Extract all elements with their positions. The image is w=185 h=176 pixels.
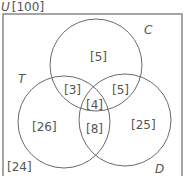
region-d-only: [25] bbox=[131, 118, 156, 132]
set-label-d: D bbox=[155, 162, 164, 176]
region-outside: [24] bbox=[7, 160, 32, 174]
set-label-c: C bbox=[144, 23, 153, 37]
universe-rectangle bbox=[3, 14, 182, 176]
region-all-three: [4] bbox=[86, 98, 103, 112]
region-c-and-d: [5] bbox=[112, 83, 129, 97]
universe-symbol: U bbox=[1, 0, 10, 14]
universe-total: [100] bbox=[12, 0, 44, 14]
region-c-only: [5] bbox=[90, 50, 107, 64]
region-t-and-d: [8] bbox=[86, 122, 103, 136]
venn-diagram: U[100] C T D [5] [3] [5] [4] [26] [8] [2… bbox=[0, 0, 185, 176]
region-t-and-c: [3] bbox=[64, 83, 81, 97]
universe-title: U[100] bbox=[1, 0, 44, 14]
region-t-only: [26] bbox=[32, 120, 57, 134]
